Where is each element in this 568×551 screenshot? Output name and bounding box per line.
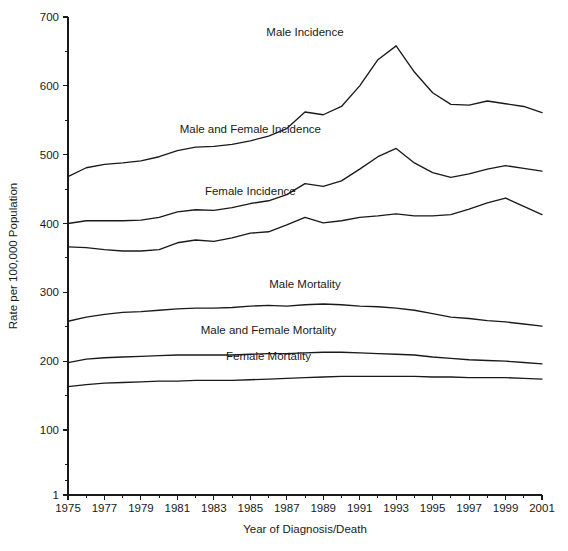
x-axis-tick-label: 1981 xyxy=(165,502,191,514)
x-axis-tick-label: 1985 xyxy=(238,502,264,514)
series-line-female-mortality xyxy=(68,376,542,386)
x-axis-tick-label: 1995 xyxy=(420,502,446,514)
x-axis-tick-label: 2001 xyxy=(529,502,555,514)
axis-ticks-layer xyxy=(63,17,542,500)
series-line-male-mortality xyxy=(68,304,542,326)
x-axis-tick-label: 1993 xyxy=(383,502,409,514)
y-axis-tick-label: 400 xyxy=(40,218,59,230)
x-axis-tick-label: 1999 xyxy=(493,502,519,514)
x-axis-tick-label: 1987 xyxy=(274,502,300,514)
x-axis-tick-label: 1977 xyxy=(92,502,118,514)
x-axis-tick-label: 1991 xyxy=(347,502,373,514)
axis-titles-layer: Year of Diagnosis/DeathRate per 100,000 … xyxy=(7,183,367,535)
axes-layer xyxy=(68,17,542,495)
axis-tick-labels-layer: 1100200300400500600700197519771979198119… xyxy=(40,11,555,514)
x-axis-tick-label: 1983 xyxy=(201,502,227,514)
x-axis-tick-label: 1979 xyxy=(128,502,154,514)
series-line-male-incidence xyxy=(68,46,542,177)
series-label-female-incidence: Female Incidence xyxy=(205,185,296,197)
series-line-male-and-female-incidence xyxy=(68,148,542,223)
y-axis-tick-label: 500 xyxy=(40,149,59,161)
y-axis-tick-label: 200 xyxy=(40,355,59,367)
x-axis-tick-label: 1989 xyxy=(310,502,336,514)
series-label-male-incidence: Male Incidence xyxy=(266,26,343,38)
x-axis-tick-label: 1997 xyxy=(456,502,482,514)
chart-container: 1100200300400500600700197519771979198119… xyxy=(0,0,568,551)
y-axis-tick-label: 700 xyxy=(40,11,59,23)
series-labels-layer: Male IncidenceMale and Female IncidenceF… xyxy=(180,26,344,362)
x-axis-title: Year of Diagnosis/Death xyxy=(243,523,367,535)
series-label-male-and-female-incidence: Male and Female Incidence xyxy=(180,123,321,135)
rate-trend-line-chart: 1100200300400500600700197519771979198119… xyxy=(0,0,568,551)
series-label-male-mortality: Male Mortality xyxy=(269,278,341,290)
series-line-female-incidence xyxy=(68,198,542,251)
series-label-female-mortality: Female Mortality xyxy=(226,350,311,362)
y-axis-title: Rate per 100,000 Population xyxy=(7,183,19,329)
series-label-male-and-female-mortality: Male and Female Mortality xyxy=(201,324,337,336)
y-axis-tick-label: 100 xyxy=(40,424,59,436)
x-axis-tick-label: 1975 xyxy=(55,502,81,514)
y-axis-tick-label: 300 xyxy=(40,286,59,298)
y-axis-tick-label: 1 xyxy=(53,489,59,501)
y-axis-tick-label: 600 xyxy=(40,80,59,92)
